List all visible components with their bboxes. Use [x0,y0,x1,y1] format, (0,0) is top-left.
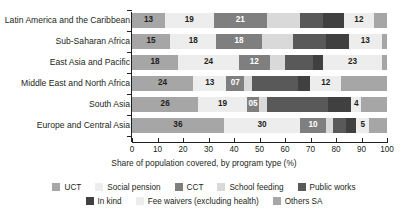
x-axis-label: Share of population covered, by program … [0,158,408,168]
legend-label: CCT [187,183,204,192]
bar-segment [298,76,311,91]
plot-area: Latin America and the Caribbean13192112S… [0,10,408,142]
bar-segment: 15 [132,34,170,49]
bar-segment [323,13,343,28]
legend-item[interactable]: Others SA [273,197,323,206]
category-label: Sub-Saharan Africa [55,31,130,52]
bar-segment [285,55,313,70]
bar-value-label: 19 [185,16,194,24]
stacked-bar: 2619054 [132,97,387,112]
bar-segment: 24 [132,76,193,91]
x-axis-tick-label: 80 [331,145,340,154]
bar-segment: 13 [132,13,165,28]
bar-segment: 13 [349,34,382,49]
x-axis-tick-label: 100 [380,145,394,154]
bar-segment [374,13,387,28]
bar-segment [326,34,349,49]
bar-segment: 23 [323,55,382,70]
bar-value-label: 12 [321,79,330,87]
bar-segment [369,118,387,133]
legend-label: School feeding [229,183,283,192]
legend-item[interactable]: School feeding [217,183,283,192]
x-axis-tick [158,138,159,143]
bar-segment [300,13,323,28]
category-label: Latin America and the Caribbean [5,10,130,31]
legend-label: Social pension [107,183,160,192]
stacked-bar: 15181813 [132,34,387,49]
legend-swatch-icon [136,197,144,205]
stacked-bar: 24130712 [132,76,387,91]
legend-item[interactable]: Public works [298,183,356,192]
bar-segment: 4 [351,97,361,112]
bar-value-label: 36 [173,121,182,129]
bar-segment: 12 [344,13,375,28]
bar-segment: 18 [170,34,216,49]
bar-value-label: 12 [250,58,259,66]
category-label: Middle East and North Africa [21,73,130,94]
legend-item[interactable]: In kind [86,197,122,206]
bar-segment: 05 [247,97,260,112]
bar-segment [262,34,293,49]
bar-segment [333,118,346,133]
x-axis-tick-label: 50 [255,145,264,154]
legend-label: Public works [310,183,356,192]
bar-segment [382,55,387,70]
bar-segment: 36 [132,118,224,133]
bar-segment: 07 [226,76,244,91]
legend-swatch-icon [298,183,306,191]
chart-row: Middle East and North Africa24130712 [0,73,408,94]
x-axis-tick-label: 70 [306,145,315,154]
legend-swatch-icon [95,183,103,191]
legend-item[interactable]: CCT [175,183,204,192]
y-axis-tick [127,31,132,32]
bar-value-label: 12 [354,16,363,24]
bar-segment: 26 [132,97,198,112]
x-axis-tick [285,138,286,143]
x-axis-tick-label: 30 [204,145,213,154]
bar-value-label: 13 [144,16,153,24]
category-label: Europe and Central Asia [37,115,130,136]
bar-value-label: 23 [348,58,357,66]
stacked-bar-chart: Latin America and the Caribbean13192112S… [0,0,408,217]
bar-segment: 13 [193,76,226,91]
legend-swatch-icon [86,197,94,205]
bar-segment [326,118,334,133]
bar-value-label: 26 [161,100,170,108]
bar-segment [313,55,323,70]
x-axis-tick [387,138,388,143]
bar-segment: 12 [239,55,270,70]
bar-segment [270,55,285,70]
bar-segment [382,34,387,49]
bar-segment [361,97,387,112]
category-label: South Asia [89,94,130,115]
bar-segment [259,97,267,112]
y-axis-tick [127,52,132,53]
x-axis-tick [209,138,210,143]
legend-label: UCT [64,183,81,192]
legend-item[interactable]: Fee waivers (excluding health) [136,197,259,206]
legend-label: Fee waivers (excluding health) [148,197,259,206]
bar-segment [244,76,252,91]
stacked-bar: 13192112 [132,13,387,28]
legend-swatch-icon [273,197,281,205]
bar-segment: 21 [214,13,268,28]
bar-segment: 30 [224,118,301,133]
chart-row: Latin America and the Caribbean13192112 [0,10,408,31]
bar-segment [267,97,328,112]
bar-segment: 24 [178,55,239,70]
bar-value-label: 21 [236,16,245,24]
x-axis-tick [336,138,337,143]
bar-segment: 18 [216,34,262,49]
bar-value-label: 19 [218,100,227,108]
legend-row-2: In kindFee waivers (excluding health)Oth… [0,194,408,208]
legend-swatch-icon [217,183,225,191]
x-axis-tick-label: 0 [130,145,135,154]
bar-value-label: 30 [257,121,266,129]
bar-segment [328,97,351,112]
legend-item[interactable]: Social pension [95,183,160,192]
bar-segment: 12 [310,76,341,91]
legend-item[interactable]: UCT [52,183,81,192]
bar-value-label: 24 [204,58,213,66]
x-axis-tick [183,138,184,143]
bar-segment: 19 [198,97,246,112]
